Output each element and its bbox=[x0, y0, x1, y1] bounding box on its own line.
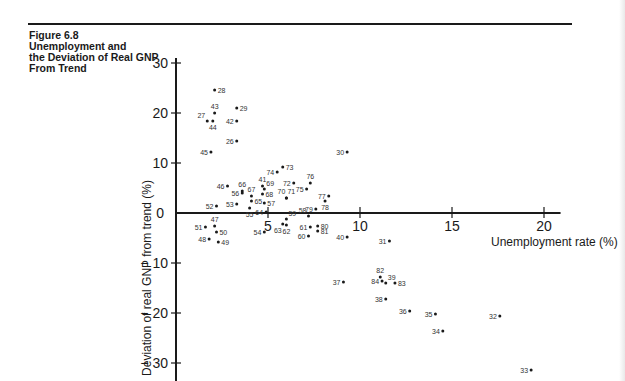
point-label: 53 bbox=[226, 201, 234, 208]
data-point bbox=[261, 185, 264, 188]
data-point bbox=[434, 313, 437, 316]
point-label: 52 bbox=[206, 203, 214, 210]
data-point bbox=[388, 240, 391, 243]
point-label: 67 bbox=[248, 186, 256, 193]
data-point bbox=[327, 195, 330, 198]
point-label: 48 bbox=[198, 236, 206, 243]
data-point bbox=[261, 193, 264, 196]
point-label: 84 bbox=[371, 278, 379, 285]
point-label: 38 bbox=[375, 296, 383, 303]
data-point bbox=[204, 226, 207, 229]
data-point bbox=[305, 188, 308, 191]
data-point bbox=[498, 315, 501, 318]
x-tick-label: 20 bbox=[536, 218, 552, 234]
data-point bbox=[215, 205, 218, 208]
data-point bbox=[263, 188, 266, 191]
point-label: 49 bbox=[221, 239, 229, 246]
point-label: 36 bbox=[399, 308, 407, 315]
point-label: 78 bbox=[321, 204, 329, 211]
data-point bbox=[265, 211, 268, 214]
point-label: 69 bbox=[266, 180, 274, 187]
data-point bbox=[381, 280, 384, 283]
data-point bbox=[316, 230, 319, 233]
point-label: 33 bbox=[520, 367, 528, 374]
data-point bbox=[342, 281, 345, 284]
data-point bbox=[408, 310, 411, 313]
y-tick-label: 0 bbox=[156, 205, 164, 221]
data-point bbox=[209, 151, 212, 154]
point-label: 45 bbox=[200, 149, 208, 156]
point-label: 62 bbox=[283, 228, 291, 235]
point-label: 27 bbox=[197, 112, 205, 119]
data-point bbox=[379, 276, 382, 279]
data-point bbox=[235, 107, 238, 110]
point-label: 43 bbox=[211, 103, 219, 110]
data-point bbox=[263, 231, 266, 234]
data-point bbox=[314, 208, 317, 211]
data-point bbox=[235, 120, 238, 123]
point-label: 29 bbox=[240, 105, 248, 112]
data-point bbox=[213, 225, 216, 228]
point-label: 61 bbox=[300, 224, 308, 231]
point-label: 55 bbox=[246, 211, 254, 218]
data-point bbox=[307, 215, 310, 218]
point-label: 31 bbox=[379, 238, 387, 245]
data-point bbox=[213, 89, 216, 92]
data-point bbox=[346, 151, 349, 154]
point-label: 60 bbox=[298, 233, 306, 240]
data-point bbox=[316, 225, 319, 228]
data-point bbox=[285, 197, 288, 200]
scatter-chart: 3020100− 10− 20− 305101520 2627282930313… bbox=[0, 0, 625, 381]
point-label: 70 bbox=[278, 188, 286, 195]
data-point bbox=[285, 224, 288, 227]
data-point bbox=[250, 200, 253, 203]
point-label: 35 bbox=[425, 311, 433, 318]
data-point bbox=[324, 200, 327, 203]
data-point bbox=[384, 298, 387, 301]
point-label: 81 bbox=[321, 228, 329, 235]
point-label: 79 bbox=[305, 206, 313, 213]
data-point bbox=[307, 235, 310, 238]
point-label: 37 bbox=[333, 279, 341, 286]
data-point bbox=[285, 218, 288, 221]
data-point bbox=[281, 166, 284, 169]
data-point bbox=[292, 182, 295, 185]
point-label: 46 bbox=[217, 183, 225, 190]
data-point bbox=[276, 171, 279, 174]
point-label: 63 bbox=[274, 227, 282, 234]
point-label: 82 bbox=[376, 267, 384, 274]
y-tick-label: 10 bbox=[152, 155, 168, 171]
point-label: 44 bbox=[209, 124, 217, 131]
point-label: 30 bbox=[336, 149, 344, 156]
data-point bbox=[309, 182, 312, 185]
data-point bbox=[281, 223, 284, 226]
point-label: 65 bbox=[254, 198, 262, 205]
data-point bbox=[441, 330, 444, 333]
y-tick-label: 20 bbox=[152, 105, 168, 121]
point-label: 50 bbox=[219, 229, 227, 236]
data-point bbox=[215, 231, 218, 234]
data-point bbox=[206, 120, 209, 123]
data-point bbox=[309, 226, 312, 229]
data-point bbox=[250, 195, 253, 198]
point-label: 76 bbox=[306, 173, 314, 180]
point-label: 26 bbox=[226, 138, 234, 145]
data-point bbox=[226, 185, 229, 188]
point-label: 51 bbox=[195, 224, 203, 231]
point-label: 47 bbox=[211, 216, 219, 223]
x-tick-label: 15 bbox=[444, 218, 460, 234]
data-point bbox=[346, 236, 349, 239]
data-point bbox=[211, 120, 214, 123]
point-label: 59 bbox=[288, 210, 296, 217]
point-label: 32 bbox=[489, 313, 497, 320]
point-label: 40 bbox=[336, 234, 344, 241]
point-label: 41 bbox=[259, 176, 267, 183]
point-label: 42 bbox=[226, 118, 234, 125]
data-point bbox=[217, 241, 220, 244]
point-label: 83 bbox=[398, 280, 406, 287]
data-point bbox=[530, 369, 533, 372]
point-label: 28 bbox=[218, 87, 226, 94]
point-label: 77 bbox=[318, 193, 326, 200]
data-point bbox=[235, 203, 238, 206]
point-label: 75 bbox=[296, 186, 304, 193]
